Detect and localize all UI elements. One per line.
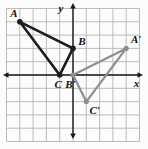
coordinate-plane-figure: xyABCA′B′C′: [0, 0, 148, 149]
vertex-label-C-prime: C′: [90, 104, 100, 116]
vertex-dot-C-prime: [84, 99, 89, 104]
vertex-label-A-prime: A′: [130, 33, 141, 45]
vertex-dot-A: [17, 19, 23, 25]
vertex-label-A: A: [9, 7, 17, 19]
vertex-dot-B: [70, 46, 76, 52]
vertex-label-B-prime: B′: [64, 78, 75, 90]
vertex-label-C: C: [55, 78, 63, 90]
vertex-label-B: B: [77, 35, 85, 47]
y-axis-label: y: [57, 2, 64, 14]
x-axis-label: x: [133, 77, 140, 89]
graph-canvas: xyABCA′B′C′: [0, 0, 148, 149]
vertex-dot-A-prime: [124, 46, 129, 51]
